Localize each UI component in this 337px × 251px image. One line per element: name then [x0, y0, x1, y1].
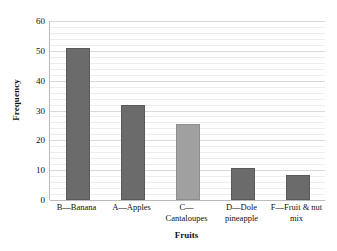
y-axis-title-label: Frequency — [11, 79, 21, 121]
bar-slot — [270, 21, 325, 200]
bar[interactable] — [176, 124, 200, 200]
x-axis-title: Fruits — [49, 230, 324, 240]
bar-chart-figure: Frequency 0102030405060 B—BananaA—Apples… — [0, 0, 337, 251]
y-axis-tick-labels: 0102030405060 — [24, 21, 48, 200]
y-axis-tick-label: 60 — [36, 16, 45, 26]
x-axis-tick-label: C—Cantaloupes — [159, 202, 214, 223]
bar-slot — [50, 21, 105, 200]
x-axis-tick-label: B—Banana — [49, 202, 104, 223]
bar-slot — [160, 21, 215, 200]
bar[interactable] — [66, 48, 90, 200]
bar[interactable] — [231, 168, 255, 200]
x-axis-tick-label: F—Fruit & nut mix — [269, 202, 324, 223]
y-axis-title: Frequency — [8, 0, 24, 200]
bar-series — [50, 21, 325, 200]
y-axis-tick-label: 20 — [36, 135, 45, 145]
y-axis-tick-label: 50 — [36, 46, 45, 56]
axis-baseline — [50, 200, 325, 201]
y-axis-tick-label: 0 — [41, 195, 46, 205]
x-axis-tick-label: A—Apples — [104, 202, 159, 223]
bar-slot — [215, 21, 270, 200]
bar[interactable] — [286, 175, 310, 200]
bar-slot — [105, 21, 160, 200]
plot-area — [49, 21, 325, 200]
y-axis-tick-label: 30 — [36, 106, 45, 116]
bar[interactable] — [121, 105, 145, 200]
y-axis-tick-label: 40 — [36, 76, 45, 86]
x-axis-tick-labels: B—BananaA—ApplesC—CantaloupesD—Dole pine… — [49, 202, 324, 223]
x-axis-tick-label: D—Dole pineapple — [214, 202, 269, 223]
y-axis-tick-label: 10 — [36, 165, 45, 175]
